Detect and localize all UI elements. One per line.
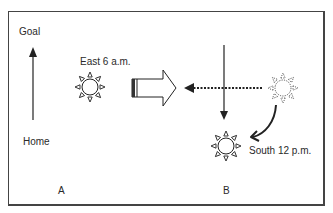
east-6am-label: East 6 a.m.	[80, 56, 131, 67]
hollow-right-arrow-icon	[132, 70, 176, 106]
home-label: Home	[23, 136, 50, 147]
downward-arrow	[220, 45, 228, 120]
home-to-goal-arrow	[29, 47, 37, 120]
south-12pm-label: South 12 p.m.	[249, 145, 311, 156]
panel-label-a: A	[58, 185, 65, 196]
goal-label: Goal	[19, 26, 40, 37]
curved-arrow	[251, 105, 276, 141]
dotted-sun-icon	[268, 73, 298, 103]
sun-icon	[211, 131, 241, 161]
dotted-left-arrow	[184, 83, 262, 93]
sun-icon	[75, 72, 105, 102]
panel-label-b: B	[223, 185, 230, 196]
diagram-artwork	[0, 0, 333, 213]
